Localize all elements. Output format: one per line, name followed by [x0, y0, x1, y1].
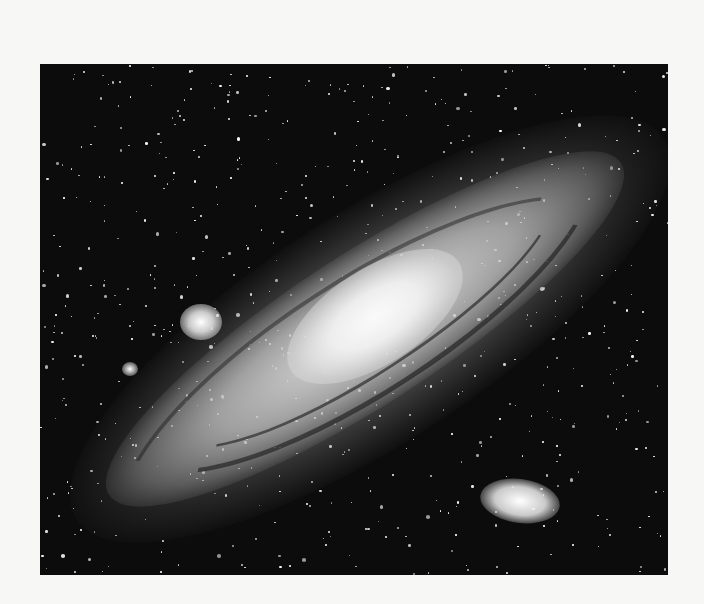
star: [456, 506, 458, 508]
star: [426, 515, 430, 519]
star: [228, 252, 231, 255]
star: [546, 474, 549, 477]
star: [630, 351, 632, 353]
star: [90, 201, 92, 203]
star: [172, 117, 174, 119]
star: [496, 566, 498, 568]
star: [499, 418, 501, 420]
star: [268, 95, 270, 97]
star: [447, 125, 449, 127]
star: [626, 309, 629, 312]
star: [81, 146, 83, 148]
star: [42, 284, 46, 288]
star: [228, 118, 231, 121]
star: [363, 85, 365, 87]
star: [323, 538, 325, 540]
star: [92, 335, 94, 337]
star: [78, 175, 80, 177]
star: [237, 137, 241, 141]
star: [108, 84, 110, 86]
star: [154, 175, 157, 178]
star: [664, 568, 667, 571]
star: [547, 366, 549, 368]
star: [556, 461, 558, 463]
star: [241, 564, 243, 566]
star: [461, 69, 463, 71]
star: [180, 295, 184, 299]
star: [74, 534, 76, 536]
star: [196, 275, 198, 277]
star: [249, 115, 251, 117]
star: [457, 501, 460, 504]
star: [642, 329, 644, 331]
star: [276, 163, 278, 165]
star: [461, 461, 463, 463]
star: [397, 157, 399, 159]
satellite-galaxy-upper: [180, 304, 222, 340]
star: [305, 197, 307, 199]
star: [386, 87, 390, 91]
star: [214, 107, 216, 109]
star: [219, 85, 222, 88]
star: [177, 110, 179, 112]
star: [635, 360, 638, 363]
star: [59, 246, 61, 248]
star: [584, 68, 586, 70]
star: [355, 566, 357, 568]
star: [626, 413, 628, 415]
star: [150, 274, 152, 276]
star: [625, 419, 627, 421]
star: [255, 538, 258, 541]
star: [662, 75, 666, 79]
star: [65, 404, 67, 406]
star: [351, 502, 353, 504]
star: [606, 519, 608, 521]
star: [88, 247, 91, 250]
star: [479, 441, 482, 444]
star: [468, 135, 470, 137]
star: [128, 145, 130, 147]
star: [163, 329, 165, 331]
star: [385, 536, 387, 538]
star: [622, 395, 624, 397]
star: [603, 332, 605, 334]
star: [305, 175, 307, 177]
star: [45, 365, 49, 369]
star: [71, 168, 73, 170]
star: [514, 107, 517, 110]
star: [635, 448, 638, 451]
star: [451, 433, 453, 435]
star: [597, 515, 599, 517]
star: [74, 571, 76, 573]
star: [334, 132, 337, 135]
star: [367, 171, 369, 173]
star: [62, 400, 64, 402]
star: [45, 530, 48, 533]
star: [112, 81, 115, 84]
star: [328, 531, 330, 533]
star: [509, 403, 512, 406]
star: [103, 284, 106, 287]
star: [406, 115, 408, 117]
star: [169, 331, 171, 333]
star: [315, 166, 317, 168]
star: [296, 215, 298, 217]
star: [310, 204, 314, 208]
star: [157, 133, 160, 136]
star: [613, 301, 617, 305]
star: [616, 369, 618, 371]
star: [237, 168, 239, 170]
star: [57, 274, 60, 277]
star: [156, 232, 160, 236]
star: [265, 110, 267, 112]
star: [466, 565, 468, 567]
star: [190, 88, 193, 91]
star: [610, 374, 612, 376]
star: [273, 242, 275, 244]
star: [425, 90, 427, 92]
star: [42, 143, 46, 147]
star: [325, 544, 327, 546]
star: [573, 368, 575, 370]
star: [657, 385, 659, 387]
star: [161, 335, 163, 337]
